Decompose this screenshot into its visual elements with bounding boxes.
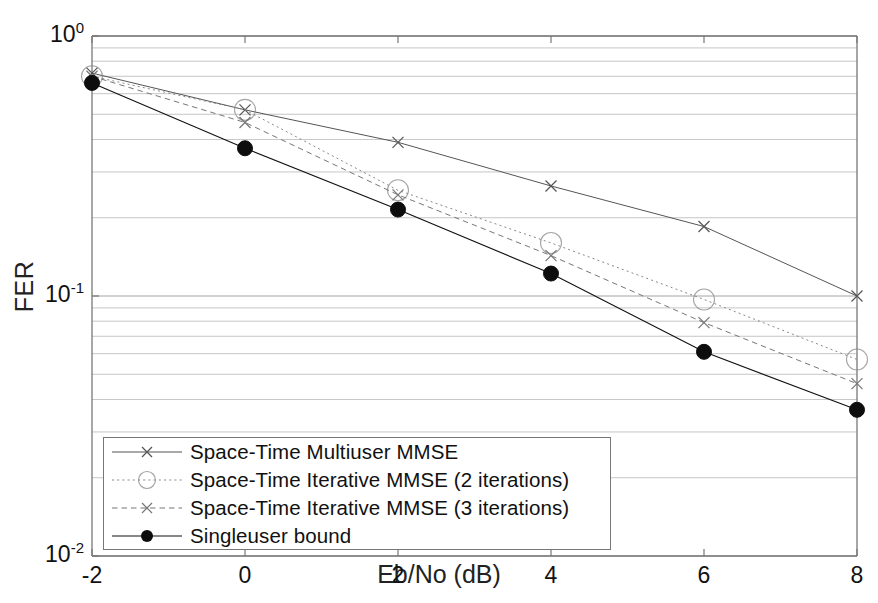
x-tick-label-5: 8 — [827, 562, 878, 589]
x-tick-label-4: 6 — [674, 562, 734, 589]
x-axis-label: Eb/No (dB) — [0, 560, 878, 589]
y-tick-mantissa: 10 — [45, 281, 71, 307]
y-tick-exponent: -2 — [71, 539, 84, 556]
legend-marker-x-icon — [104, 438, 190, 466]
legend-label: Singleuser bound — [190, 524, 351, 548]
y-tick-exponent: 0 — [76, 19, 84, 36]
figure-container: FER Eb/No (dB) 10010-110-2 -202468 Space… — [0, 0, 878, 603]
series-layer — [82, 66, 868, 418]
y-axis-label: FER — [10, 237, 39, 337]
legend-label: Space-Time Iterative MMSE (2 iterations) — [190, 468, 569, 492]
legend-marker-filled-circle-icon — [104, 522, 190, 550]
series-2 — [87, 71, 863, 389]
y-tick-exponent: -1 — [71, 279, 84, 296]
legend-item: Space-Time Iterative MMSE (3 iterations) — [104, 494, 610, 522]
y-tick-label-1: 10-1 — [45, 281, 84, 308]
legend-item: Space-Time Iterative MMSE (2 iterations) — [104, 466, 610, 494]
legend-label: Space-Time Iterative MMSE (3 iterations) — [190, 496, 569, 520]
legend-item: Singleuser bound — [104, 522, 610, 550]
series-0 — [87, 68, 863, 302]
x-tick-label-0: -2 — [62, 562, 122, 589]
legend: Space-Time Multiuser MMSESpace-Time Iter… — [103, 437, 611, 550]
x-tick-label-1: 0 — [215, 562, 275, 589]
legend-marker-circle-icon — [104, 466, 190, 494]
legend-item: Space-Time Multiuser MMSE — [104, 438, 610, 466]
x-tick-label-3: 4 — [521, 562, 581, 589]
legend-marker-x-icon — [104, 494, 190, 522]
y-tick-mantissa: 10 — [50, 21, 76, 47]
x-tick-label-2: 2 — [368, 562, 428, 589]
legend-label: Space-Time Multiuser MMSE — [190, 440, 458, 464]
y-tick-label-0: 100 — [50, 21, 84, 48]
